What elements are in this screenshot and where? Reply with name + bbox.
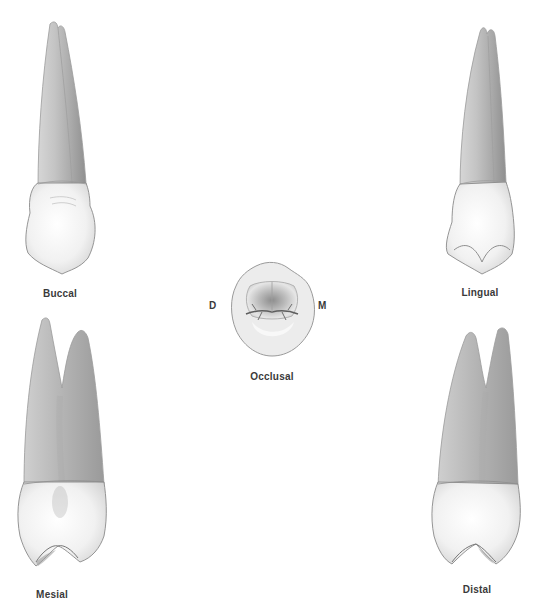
mesial-label: Mesial	[12, 589, 92, 600]
lingual-tooth-illustration	[432, 22, 532, 284]
buccal-tooth-illustration	[10, 18, 110, 280]
mesial-view	[6, 316, 116, 572]
lingual-view	[432, 22, 532, 284]
buccal-view	[10, 18, 110, 280]
occlusal-distal-marker: D	[209, 300, 216, 311]
occlusal-label: Occlusal	[232, 371, 312, 382]
occlusal-view	[226, 260, 318, 360]
occlusal-mesial-marker: M	[318, 300, 326, 311]
occlusal-tooth-illustration	[226, 260, 318, 360]
mesial-tooth-illustration	[6, 316, 116, 572]
distal-view	[420, 326, 530, 576]
distal-label: Distal	[437, 584, 517, 595]
buccal-label: Buccal	[20, 288, 100, 299]
distal-tooth-illustration	[420, 326, 530, 576]
lingual-label: Lingual	[440, 287, 520, 298]
